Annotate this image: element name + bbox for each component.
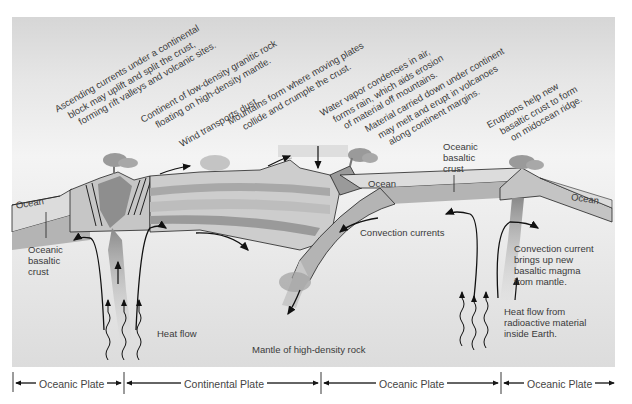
convection-arrow: [74, 237, 104, 330]
label-heat-flow: Heat flow: [157, 328, 197, 339]
plate-label-oceanic-1: Oceanic Plate: [36, 378, 107, 390]
rift-zone: [70, 153, 152, 340]
rising-arrows: [118, 262, 517, 300]
label-convection-current-right: Convection current brings up new basalti…: [514, 243, 594, 287]
label-oceanic-crust-right: Oceanic basaltic crust: [443, 141, 478, 174]
label-convection-currents: Convection currents: [360, 227, 444, 238]
plate-label-oceanic-3: Oceanic Plate: [524, 378, 595, 390]
label-heat-flow-right: Heat flow from radioactive material insi…: [504, 306, 586, 339]
continental-strata: [150, 160, 340, 250]
plate-label-oceanic-2: Oceanic Plate: [376, 378, 447, 390]
label-ocean-middle: Ocean: [368, 178, 396, 189]
convection-arrow: [446, 212, 477, 298]
dust-cloud: [200, 155, 230, 171]
label-mantle: Mantle of high-density rock: [252, 344, 366, 355]
label-oceanic-crust-left: Oceanic basaltic crust: [28, 244, 63, 277]
rain-cloud: [278, 145, 348, 160]
plate-label-continental: Continental Plate: [181, 378, 267, 390]
